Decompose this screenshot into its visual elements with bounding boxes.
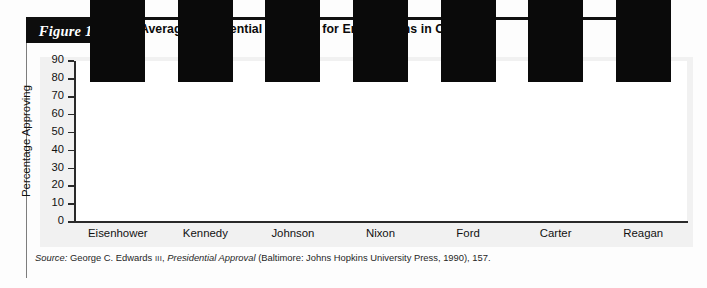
x-axis-category-label: Kennedy	[162, 227, 250, 239]
bar-slot: 47%	[441, 0, 496, 82]
y-axis-tick-label: 50	[52, 125, 64, 137]
x-axis-category-label: Reagan	[599, 227, 687, 239]
bar-slot: 52%	[616, 0, 671, 82]
y-axis-tick-label: 90	[52, 53, 64, 65]
x-axis-line	[74, 221, 688, 223]
y-axis-tick-label: 60	[52, 107, 64, 119]
source-work-title: Presidential Approval	[167, 252, 255, 263]
x-axis-category-label: Nixon	[337, 227, 425, 239]
bar-slot: 71%	[178, 0, 233, 82]
y-axis-line	[74, 61, 76, 222]
bar: 48%	[353, 0, 408, 82]
x-axis-category-label: Ford	[424, 227, 512, 239]
bar-slot: 56%	[265, 0, 320, 82]
y-axis-tick: 70	[68, 96, 74, 98]
y-axis-tick: 30	[68, 168, 74, 170]
y-axis-tick: 60	[68, 114, 74, 116]
y-axis-tick: 80	[68, 78, 74, 80]
x-axis-category-label: Johnson	[249, 227, 337, 239]
y-axis-tick: 50	[68, 132, 74, 134]
y-axis-tick-label: 40	[52, 143, 64, 155]
y-axis-tick-label: 30	[52, 161, 64, 173]
y-axis-tick: 90	[68, 60, 74, 62]
bar: 52%	[616, 0, 671, 82]
x-axis-category-label: Carter	[512, 227, 600, 239]
y-axis-tick: 40	[68, 150, 74, 152]
bar: 65%	[90, 0, 145, 82]
y-axis-title: Percentage Approving	[20, 85, 32, 197]
plot-background	[74, 61, 687, 222]
bar-slot: 47%	[528, 0, 583, 82]
y-axis-tick-label: 0	[58, 214, 64, 226]
bar: 56%	[265, 0, 320, 82]
y-axis-tick: 20	[68, 185, 74, 187]
x-axis-category-label: Eisenhower	[74, 227, 162, 239]
bar-slot: 48%	[353, 0, 408, 82]
y-axis-tick-label: 80	[52, 71, 64, 83]
y-axis-tick-label: 10	[52, 196, 64, 208]
chart-plot-region: Percentage Approving 0102030405060708090…	[40, 57, 693, 247]
source-publication: (Baltimore: Johns Hopkins University Pre…	[258, 252, 490, 263]
bar: 47%	[441, 0, 496, 82]
y-axis-tick: 10	[68, 203, 74, 205]
y-axis-tick-label: 20	[52, 178, 64, 190]
source-author: George C. Edwards	[70, 252, 152, 263]
bar: 71%	[178, 0, 233, 82]
y-axis-tick: 0	[68, 221, 74, 223]
source-prefix: Source:	[35, 252, 67, 263]
y-axis-tick-label: 70	[52, 89, 64, 101]
bar-slot: 65%	[90, 0, 145, 82]
figure-container: Figure 13.4 Average Presidential Approva…	[0, 0, 707, 288]
source-note: Source: George C. Edwards III, President…	[35, 252, 595, 264]
bar: 47%	[528, 0, 583, 82]
